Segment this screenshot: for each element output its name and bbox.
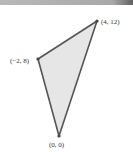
vertex-point-4-12: [95, 19, 98, 22]
triangle-diagram: (4, 12) (−2, 8) (0, 0): [0, 0, 133, 165]
vertex-label-4-12: (4, 12): [101, 18, 120, 26]
vertex-point-neg2-8: [36, 57, 39, 60]
vertex-point-0-0: [57, 134, 60, 137]
vertex-label-0-0: (0, 0): [49, 141, 65, 149]
triangle-shape: [38, 21, 97, 136]
vertex-label-neg2-8: (−2, 8): [10, 57, 30, 65]
